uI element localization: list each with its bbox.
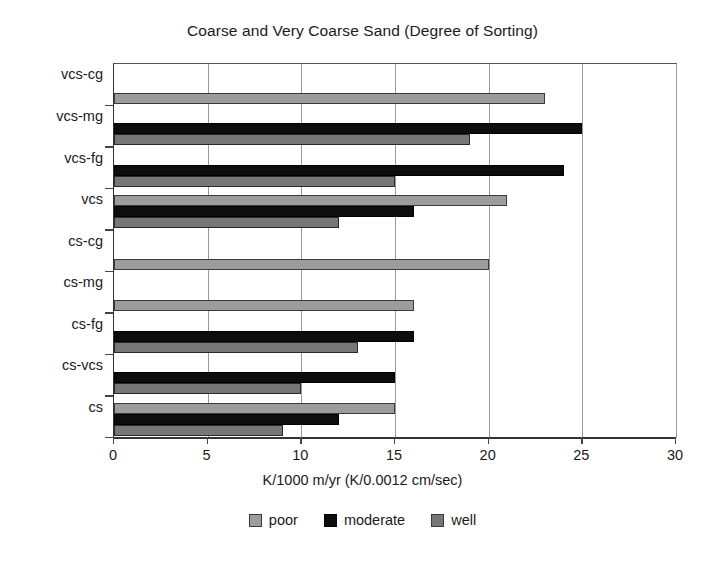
bar-cs-vcs-well [114, 383, 301, 394]
y-axis-label-vcs-mg: vcs-mg [5, 108, 103, 124]
x-axis-title: K/1000 m/yr (K/0.0012 cm/sec) [0, 472, 725, 488]
bar-cs-fg-moderate [114, 331, 414, 342]
y-tick-vcs-cg [105, 105, 113, 106]
x-tick-25 [581, 437, 582, 444]
legend-label-well: well [451, 512, 476, 528]
bar-cs-mg-poor [114, 300, 414, 311]
x-tick-label-30: 30 [655, 447, 695, 463]
bar-cs-cg-poor [114, 259, 489, 270]
y-axis-label-vcs: vcs [5, 191, 103, 207]
gridline-20 [489, 64, 490, 438]
bar-cs-poor [114, 403, 395, 414]
x-tick-label-5: 5 [187, 447, 227, 463]
chart-legend: poormoderatewell [0, 512, 725, 528]
x-tick-15 [394, 437, 395, 444]
bar-vcs-mg-well [114, 134, 470, 145]
x-tick-label-0: 0 [93, 447, 133, 463]
legend-swatch-moderate-icon [324, 514, 337, 527]
x-tick-20 [488, 437, 489, 444]
y-tick-cs-cg [105, 271, 113, 272]
legend-label-moderate: moderate [344, 512, 405, 528]
bar-cs-fg-well [114, 342, 358, 353]
y-axis-label-cs-fg: cs-fg [5, 316, 103, 332]
bar-vcs-moderate [114, 206, 414, 217]
y-axis-label-cs: cs [5, 399, 103, 415]
y-tick-cs-vcs [105, 395, 113, 396]
bar-cs-vcs-moderate [114, 372, 395, 383]
bar-cs-well [114, 425, 283, 436]
bar-vcs-poor [114, 195, 507, 206]
y-tick-cs-fg [105, 354, 113, 355]
y-axis-label-vcs-cg: vcs-cg [5, 66, 103, 82]
x-tick-label-25: 25 [561, 447, 601, 463]
legend-label-poor: poor [269, 512, 298, 528]
legend-item-poor[interactable]: poor [249, 512, 298, 528]
gridline-15 [395, 64, 396, 438]
bar-vcs-well [114, 217, 339, 228]
chart-title: Coarse and Very Coarse Sand (Degree of S… [0, 22, 725, 40]
y-axis-label-cs-cg: cs-cg [5, 233, 103, 249]
x-tick-5 [207, 437, 208, 444]
gridline-30 [676, 64, 677, 438]
y-tick-cs [105, 437, 113, 438]
y-axis-label-vcs-fg: vcs-fg [5, 150, 103, 166]
gridline-25 [582, 64, 583, 438]
legend-item-well[interactable]: well [431, 512, 476, 528]
legend-item-moderate[interactable]: moderate [324, 512, 405, 528]
y-axis-label-cs-vcs: cs-vcs [5, 357, 103, 373]
y-tick-vcs-fg [105, 188, 113, 189]
bar-vcs-cg-poor [114, 93, 545, 104]
x-tick-label-10: 10 [280, 447, 320, 463]
x-tick-10 [300, 437, 301, 444]
y-tick-vcs [105, 229, 113, 230]
bar-vcs-fg-moderate [114, 165, 564, 176]
x-tick-30 [675, 437, 676, 444]
bar-chart: Coarse and Very Coarse Sand (Degree of S… [0, 0, 725, 561]
x-tick-0 [113, 437, 114, 444]
x-tick-label-20: 20 [468, 447, 508, 463]
bar-vcs-mg-moderate [114, 123, 582, 134]
y-tick-vcs-mg [105, 146, 113, 147]
y-tick-cs-mg [105, 312, 113, 313]
plot-area [113, 63, 677, 438]
bar-vcs-fg-well [114, 176, 395, 187]
bar-cs-moderate [114, 414, 339, 425]
legend-swatch-well-icon [431, 514, 444, 527]
legend-swatch-poor-icon [249, 514, 262, 527]
y-axis-label-cs-mg: cs-mg [5, 274, 103, 290]
x-tick-label-15: 15 [374, 447, 414, 463]
